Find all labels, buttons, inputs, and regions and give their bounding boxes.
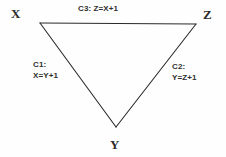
edge-label-c3: C3: Z=X+1 xyxy=(78,3,118,14)
constraint-graph-figure: X Z Y C3: Z=X+1 C1: X=Y+1 C2: Y=Z+1 xyxy=(0,0,226,157)
node-label-z: Z xyxy=(203,8,212,21)
edge-label-c1-name: C1: xyxy=(33,60,46,69)
edge-line-c3 xyxy=(40,23,196,24)
node-label-y: Y xyxy=(110,138,119,151)
edge-label-c1: C1: X=Y+1 xyxy=(33,59,58,81)
edge-label-c2-constraint: Y=Z+1 xyxy=(172,72,197,83)
edge-label-c2-name: C2: xyxy=(172,62,185,71)
edge-label-c2: C2: Y=Z+1 xyxy=(172,61,197,83)
node-label-x: X xyxy=(11,7,20,20)
edge-label-c1-constraint: X=Y+1 xyxy=(33,70,58,81)
